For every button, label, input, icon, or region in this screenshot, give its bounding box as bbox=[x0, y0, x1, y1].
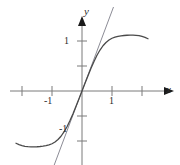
x-axis-label: x bbox=[166, 84, 171, 95]
x-tick-label-neg1: -1 bbox=[44, 96, 52, 106]
y-tick-label-neg1: -1 bbox=[59, 124, 67, 134]
x-tick-label-pos1: 1 bbox=[109, 96, 114, 106]
plot-canvas bbox=[0, 0, 180, 165]
function-graph-figure: y x -1 1 1 -1 bbox=[0, 0, 180, 165]
y-axis-label: y bbox=[84, 6, 89, 17]
y-axis-arrowhead bbox=[78, 16, 86, 26]
y-tick-label-pos1: 1 bbox=[64, 36, 69, 46]
